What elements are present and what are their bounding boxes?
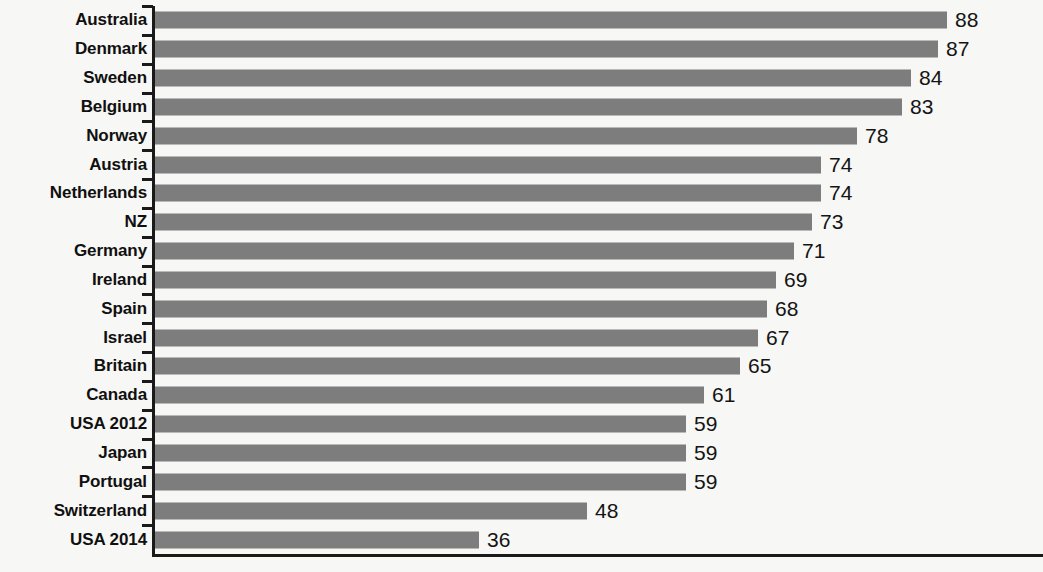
category-label: Switzerland: [54, 501, 147, 521]
category-label: Canada: [86, 385, 147, 405]
table-row: Germany 71: [0, 237, 1043, 266]
axis-tick: [142, 207, 153, 210]
bar-value-label: 71: [802, 239, 825, 263]
bar-value-label: 36: [487, 528, 510, 552]
bar-value-label: 59: [694, 412, 717, 436]
bar: [155, 214, 812, 231]
bar: [155, 531, 479, 548]
category-label: Ireland: [92, 270, 147, 290]
bar-value-label: 68: [775, 297, 798, 321]
table-row: Japan 59: [0, 439, 1043, 468]
category-label: Australia: [75, 10, 147, 30]
axis-tick: [142, 293, 153, 296]
table-row: Portugal 59: [0, 467, 1043, 496]
category-label: Sweden: [83, 68, 147, 88]
category-label: Israel: [103, 328, 147, 348]
table-row: NZ 73: [0, 208, 1043, 237]
bar-value-label: 74: [829, 181, 852, 205]
axis-tick: [142, 322, 153, 325]
bar-value-label: 84: [919, 66, 942, 90]
plot-area: Australia 88 Denmark 87 Sweden 84 Belgiu…: [0, 0, 1043, 572]
table-row: Denmark 87: [0, 35, 1043, 64]
table-row: Spain 68: [0, 294, 1043, 323]
bar: [155, 243, 794, 260]
category-label: Norway: [86, 126, 147, 146]
table-row: Norway 78: [0, 121, 1043, 150]
bar: [155, 416, 686, 433]
table-row: USA 2012 59: [0, 410, 1043, 439]
table-row: Israel 67: [0, 323, 1043, 352]
category-label: Spain: [101, 299, 147, 319]
axis-tick: [142, 495, 153, 498]
bar: [155, 445, 686, 462]
bar: [155, 502, 587, 519]
table-row: Australia 88: [0, 6, 1043, 35]
bar-value-label: 65: [748, 354, 771, 378]
bar-value-label: 67: [766, 326, 789, 350]
axis-tick: [142, 380, 153, 383]
table-row: Netherlands 74: [0, 179, 1043, 208]
bar-value-label: 59: [694, 441, 717, 465]
bar: [155, 12, 947, 29]
bar: [155, 156, 821, 173]
bar-chart: Australia 88 Denmark 87 Sweden 84 Belgiu…: [0, 0, 1043, 572]
category-label: Netherlands: [50, 183, 147, 203]
bar: [155, 98, 902, 115]
clipped-caption: [175, 561, 875, 572]
table-row: Switzerland 48: [0, 496, 1043, 525]
category-label: NZ: [125, 212, 147, 232]
axis-tick: [142, 409, 153, 412]
bar-value-label: 61: [712, 383, 735, 407]
bar: [155, 127, 857, 144]
axis-tick: [142, 438, 153, 441]
table-row: Sweden 84: [0, 64, 1043, 93]
axis-tick: [142, 351, 153, 354]
bar: [155, 271, 776, 288]
category-label: Belgium: [81, 97, 147, 117]
table-row: Canada 61: [0, 381, 1043, 410]
bar: [155, 473, 686, 490]
bar: [155, 185, 821, 202]
axis-tick: [142, 63, 153, 66]
axis-tick: [142, 5, 153, 8]
axis-tick: [142, 120, 153, 123]
axis-tick: [142, 524, 153, 527]
axis-tick: [142, 149, 153, 152]
x-axis-baseline: [152, 554, 1043, 557]
bar: [155, 300, 767, 317]
bar-value-label: 74: [829, 153, 852, 177]
axis-tick: [142, 265, 153, 268]
bar: [155, 70, 911, 87]
category-label: Britain: [94, 356, 147, 376]
bar: [155, 329, 758, 346]
axis-tick: [142, 92, 153, 95]
bar-value-label: 88: [955, 8, 978, 32]
bar-value-label: 48: [595, 499, 618, 523]
table-row: Britain 65: [0, 352, 1043, 381]
category-label: USA 2012: [70, 414, 147, 434]
bar: [155, 358, 740, 375]
table-row: Ireland 69: [0, 266, 1043, 295]
table-row: USA 2014 36: [0, 525, 1043, 554]
bar-value-label: 87: [946, 37, 969, 61]
table-row: Belgium 83: [0, 93, 1043, 122]
bar-value-label: 73: [820, 210, 843, 234]
axis-tick: [142, 178, 153, 181]
bar: [155, 41, 938, 58]
category-label: Japan: [98, 443, 147, 463]
category-label: USA 2014: [70, 530, 147, 550]
bar-value-label: 69: [784, 268, 807, 292]
table-row: Austria 74: [0, 150, 1043, 179]
bar-value-label: 78: [865, 124, 888, 148]
category-label: Denmark: [75, 39, 147, 59]
bar-value-label: 83: [910, 95, 933, 119]
bar-value-label: 59: [694, 470, 717, 494]
category-label: Germany: [74, 241, 147, 261]
bar: [155, 387, 704, 404]
category-label: Portugal: [79, 472, 147, 492]
axis-tick: [142, 466, 153, 469]
category-label: Austria: [89, 155, 147, 175]
axis-tick: [142, 236, 153, 239]
axis-tick: [142, 34, 153, 37]
